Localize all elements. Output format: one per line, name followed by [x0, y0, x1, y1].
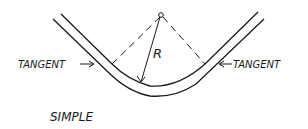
- radius-arrowhead-icon: [137, 76, 145, 82]
- left-tangent-label: TANGENT: [18, 59, 66, 70]
- diagram-title: SIMPLE: [50, 110, 93, 124]
- center-point-icon: [159, 13, 164, 18]
- radius-label: R: [153, 46, 162, 61]
- right-tangent-label: TANGENT: [233, 59, 281, 70]
- simple-curve-diagram: R TANGENT TANGENT SIMPLE: [0, 0, 308, 129]
- dashed-radius-right: [163, 17, 205, 64]
